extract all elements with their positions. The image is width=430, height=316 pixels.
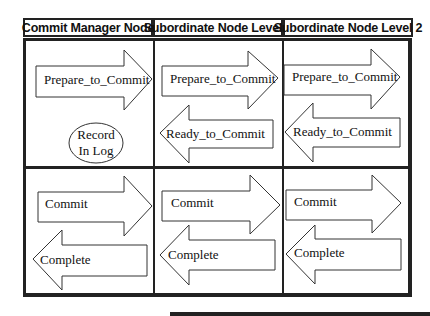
label-commit-level1: Commit [171, 195, 214, 211]
label-commit-level2: Commit [294, 194, 337, 210]
label-commit-manager: Commit [45, 196, 88, 212]
label-in-log: In Log [69, 143, 123, 159]
label-record: Record [69, 127, 123, 143]
label-ready-level1: Ready_to_Commit [166, 126, 265, 142]
label-prepare-level1: Prepare_to_Commit [170, 71, 275, 87]
label-record-in-log: Record In Log [69, 127, 123, 159]
label-complete-level2: Complete [294, 245, 345, 261]
label-prepare-level2: Prepare_to_Commit [292, 69, 397, 85]
label-complete-level1: Complete [168, 247, 219, 263]
label-prepare-manager: Prepare_to_Commit [44, 72, 149, 88]
arrows-layer [0, 0, 430, 316]
label-complete-manager: Complete [40, 252, 91, 268]
page-edge-bar [170, 312, 430, 316]
label-ready-level2: Ready_to_Commit [293, 124, 392, 140]
